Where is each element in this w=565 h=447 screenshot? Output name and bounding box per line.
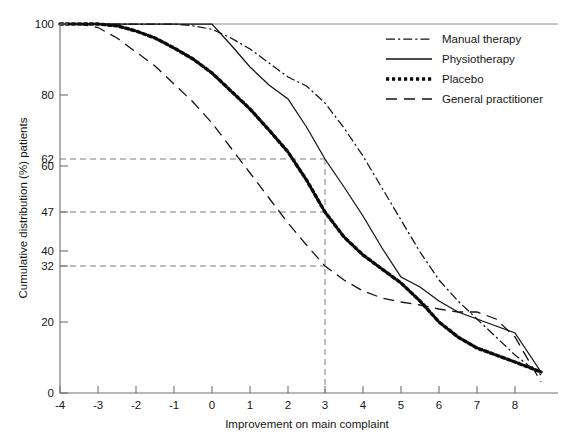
cumulative-distribution-chart: 0 20 32 40 47 60 62 80 100	[0, 0, 565, 447]
y-axis-label-80: 80	[41, 89, 54, 101]
x-axis-label-2: 2	[285, 399, 291, 411]
legend-item-physiotherapy[interactable]: Physiotherapy	[386, 53, 515, 65]
x-axis-label-4: 4	[360, 399, 367, 411]
legend-label-general-practitioner: General practitioner	[442, 93, 543, 105]
y-axis-label-62: 62	[41, 153, 54, 165]
legend-item-placebo[interactable]: Placebo	[386, 73, 484, 85]
legend-item-manual-therapy[interactable]: Manual therapy	[386, 33, 522, 45]
chart-legend: Manual therapy Physiotherapy Placebo Gen…	[386, 33, 543, 105]
y-axis-label-47: 47	[41, 206, 54, 218]
x-tick-labels: -4 -3 -2 -1 0 1 2 3 4 5 6 7 8	[55, 399, 518, 411]
x-axis-label--1: -1	[169, 399, 179, 411]
reference-lines	[60, 159, 325, 393]
x-axis-label--4: -4	[55, 399, 66, 411]
x-axis-label-7: 7	[474, 399, 480, 411]
y-axis-label-32: 32	[41, 260, 54, 272]
x-axis-title: Improvement on main complaint	[225, 418, 389, 430]
x-axis-label-0: 0	[209, 399, 215, 411]
y-tick-marks	[60, 24, 68, 393]
x-axis-label-1: 1	[247, 399, 253, 411]
chart-svg: 0 20 32 40 47 60 62 80 100	[0, 0, 565, 447]
x-axis-label-6: 6	[436, 399, 442, 411]
y-axis-label-0: 0	[48, 387, 54, 399]
x-axis-label-8: 8	[512, 399, 518, 411]
legend-item-general-practitioner[interactable]: General practitioner	[386, 93, 543, 105]
y-axis-label-100: 100	[35, 18, 54, 30]
x-axis-label-3: 3	[322, 399, 328, 411]
y-axis-label-40: 40	[41, 245, 54, 257]
y-tick-labels: 0 20 32 40 47 60 62 80 100	[35, 18, 54, 399]
legend-label-manual-therapy: Manual therapy	[442, 33, 522, 45]
x-tick-marks	[60, 386, 515, 393]
y-axis-title: Cumulative distribution (%) patients	[17, 117, 29, 298]
x-axis-label--3: -3	[93, 399, 103, 411]
x-axis-label-5: 5	[398, 399, 404, 411]
legend-label-placebo: Placebo	[442, 73, 484, 85]
y-axis-label-20: 20	[41, 316, 54, 328]
legend-label-physiotherapy: Physiotherapy	[442, 53, 515, 65]
x-axis-label--2: -2	[131, 399, 141, 411]
